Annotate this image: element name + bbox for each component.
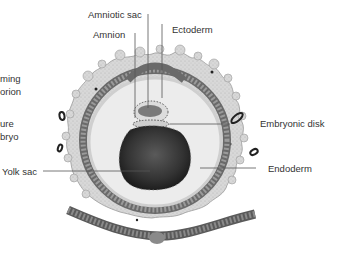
yolk-sac (119, 126, 191, 190)
label-future-embryo-2: bryo (0, 131, 18, 142)
label-forming-chorion-2: orion (0, 86, 21, 97)
label-forming-chorion-1: ming (0, 73, 21, 84)
label-amniotic-sac: Amniotic sac (88, 9, 142, 20)
amniotic-sac (134, 101, 168, 123)
label-amnion: Amnion (93, 29, 125, 40)
embryo-diagram: Amniotic sac Amnion Ectoderm ming orion … (0, 0, 345, 255)
label-endoderm: Endoderm (268, 163, 312, 174)
label-future-embryo-1: ure (0, 118, 14, 129)
label-embryonic-disk: Embryonic disk (260, 118, 324, 129)
label-yolk-sac: Yolk sac (2, 166, 37, 177)
label-ectoderm: Ectoderm (172, 24, 213, 35)
